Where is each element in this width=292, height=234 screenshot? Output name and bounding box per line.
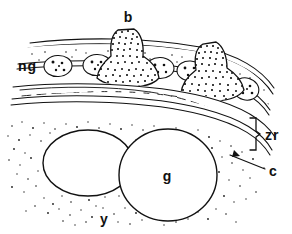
leader-arrowhead xyxy=(232,150,240,157)
label-g: g xyxy=(163,168,172,184)
label-zr: zr xyxy=(265,127,279,143)
chorion-leader-line xyxy=(230,150,265,169)
figure-canvas: b ng zr c g y xyxy=(0,0,292,234)
oocyte-left xyxy=(43,130,133,196)
histology-figure: b ng zr c g y xyxy=(0,0,292,234)
label-ng: ng xyxy=(18,58,37,74)
label-y: y xyxy=(100,211,108,227)
label-b: b xyxy=(124,9,133,25)
label-c: c xyxy=(269,163,277,179)
